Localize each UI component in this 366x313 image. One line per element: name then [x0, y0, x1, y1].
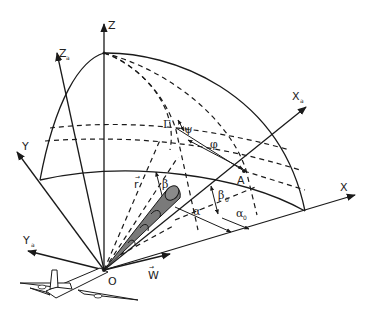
y-label: Y — [21, 140, 29, 153]
antenna-geometry-diagram: Z Z a Y Y a X X a O A r → W → Γ ψ φ β β … — [0, 0, 366, 313]
beta-label: β — [162, 178, 168, 191]
psi-label: ψ — [184, 123, 193, 136]
a-label: A — [237, 174, 245, 187]
labels: Z Z a Y Y a X X a O A r → W → Γ ψ φ β β … — [21, 19, 348, 288]
xa-sub-label: a — [300, 97, 304, 104]
alpha-arrow — [175, 207, 231, 232]
aircraft-engine-left — [38, 285, 46, 289]
alpha-label: α — [193, 205, 201, 218]
sphere-top-point — [103, 52, 106, 55]
r-vector-bar: → — [135, 173, 140, 180]
w-vector-bar: → — [149, 263, 154, 270]
left-meridian-arc — [40, 53, 104, 180]
gamma-label: Γ — [163, 118, 171, 131]
x-label: X — [340, 181, 348, 194]
dashed-meridian-3 — [104, 53, 171, 150]
origin-label: O — [108, 275, 117, 288]
dashed-ray-r-2 — [104, 157, 178, 270]
aircraft-icon — [20, 268, 138, 300]
dashed-ray-r-1 — [104, 140, 160, 270]
dashed-meridian-2 — [104, 53, 257, 215]
za-sub-label: a — [66, 54, 70, 61]
antenna-beam — [104, 183, 182, 270]
alpha0-sub-label: 0 — [243, 214, 247, 221]
phi-label: φ — [210, 138, 218, 151]
w-vector-label: W — [148, 269, 159, 282]
ya-label: Y — [22, 234, 30, 247]
dashed-meridian-1 — [104, 53, 198, 230]
origin-point — [102, 268, 106, 272]
aircraft-engine-right — [94, 294, 102, 298]
dashed-latitude-2 — [45, 139, 300, 170]
aircraft-tail — [50, 270, 58, 289]
beta0-arrow — [211, 186, 218, 214]
ya-sub-label: a — [31, 241, 35, 248]
aircraft-wing-right — [78, 290, 138, 300]
xa-label: X — [292, 90, 300, 103]
beta0-sub-label: 0 — [225, 196, 229, 203]
point-a — [242, 169, 246, 173]
beta0-label: β — [218, 189, 224, 202]
z-label: Z — [108, 19, 116, 32]
